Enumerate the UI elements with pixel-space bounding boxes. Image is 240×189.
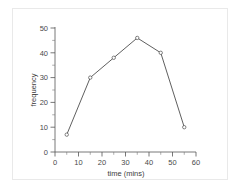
- data-point: [136, 36, 139, 39]
- data-point: [112, 56, 115, 59]
- x-tick-labels: 0 10 20 30 40 50 60: [53, 158, 200, 167]
- x-tick-label-60: 60: [192, 158, 200, 167]
- y-tick-label-0: 0: [44, 148, 48, 157]
- data-point: [89, 76, 92, 79]
- x-axis-title: time (mins): [107, 169, 145, 178]
- chart-screenshot: 0 10 20 30 40 50 0 10 20 30: [0, 0, 240, 189]
- y-tick-label-40: 40: [40, 49, 48, 58]
- x-tick-label-30: 30: [121, 158, 129, 167]
- x-tick-label-0: 0: [53, 158, 57, 167]
- x-tick-marks: [55, 152, 196, 157]
- y-tick-label-50: 50: [40, 24, 48, 33]
- y-tick-marks: [51, 28, 56, 152]
- y-tick-label-30: 30: [40, 73, 48, 82]
- x-tick-label-50: 50: [168, 158, 176, 167]
- y-tick-label-20: 20: [40, 98, 48, 107]
- data-point: [65, 133, 68, 136]
- series-markers-frequency: [65, 36, 186, 136]
- x-tick-label-40: 40: [145, 158, 153, 167]
- y-axis-title: frequency: [29, 73, 38, 106]
- y-tick-label-10: 10: [40, 123, 48, 132]
- data-point: [159, 51, 162, 54]
- x-tick-label-10: 10: [74, 158, 82, 167]
- data-point: [183, 126, 186, 129]
- y-tick-labels: 0 10 20 30 40 50: [40, 24, 48, 157]
- line-chart: 0 10 20 30 40 50 0 10 20 30: [0, 0, 240, 189]
- series-line-frequency: [67, 38, 185, 135]
- x-tick-label-20: 20: [98, 158, 106, 167]
